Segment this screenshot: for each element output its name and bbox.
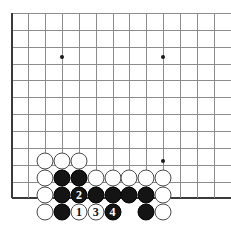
- grid-line-vertical: [28, 13, 29, 198]
- stone-black[interactable]: [104, 186, 121, 203]
- stone-black[interactable]: [138, 186, 155, 203]
- stone-black[interactable]: [54, 170, 71, 187]
- stone-white[interactable]: [87, 170, 104, 187]
- move-number-label: 2: [76, 189, 82, 201]
- stone-white[interactable]: [37, 203, 54, 220]
- stone-white[interactable]: [37, 186, 54, 203]
- grid-line-vertical: [180, 13, 181, 198]
- star-point: [60, 55, 64, 59]
- stone-white[interactable]: [37, 170, 54, 187]
- stone-black[interactable]: [87, 186, 104, 203]
- go-board: 2134: [0, 0, 231, 230]
- stone-white[interactable]: [54, 153, 71, 170]
- move-number-label: 1: [76, 206, 82, 218]
- stone-black[interactable]: [54, 203, 71, 220]
- stone-black[interactable]: [70, 170, 87, 187]
- board-edge-left: [11, 13, 13, 198]
- stone-white-move-1[interactable]: 1: [70, 203, 87, 220]
- stone-white[interactable]: [155, 170, 172, 187]
- stone-black-move-4[interactable]: 4: [104, 203, 121, 220]
- star-point: [161, 55, 165, 59]
- stone-white-move-3[interactable]: 3: [87, 203, 104, 220]
- stone-white[interactable]: [37, 153, 54, 170]
- move-number-label: 4: [110, 206, 116, 218]
- grid-line-vertical: [197, 13, 198, 198]
- stone-white[interactable]: [104, 170, 121, 187]
- stone-black-move-2[interactable]: 2: [70, 186, 87, 203]
- stone-black[interactable]: [54, 186, 71, 203]
- stone-white[interactable]: [155, 203, 172, 220]
- stone-white[interactable]: [70, 153, 87, 170]
- move-number-label: 3: [93, 206, 99, 218]
- grid-line-vertical: [214, 13, 215, 198]
- star-point: [161, 159, 165, 163]
- stone-black[interactable]: [138, 203, 155, 220]
- stone-white[interactable]: [155, 186, 172, 203]
- stone-white[interactable]: [121, 170, 138, 187]
- stone-black[interactable]: [121, 186, 138, 203]
- stone-white[interactable]: [138, 170, 155, 187]
